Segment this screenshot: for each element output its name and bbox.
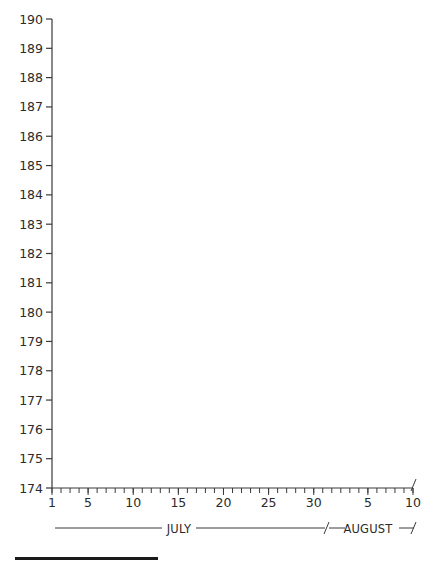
x-tick-label: 10 <box>405 495 421 510</box>
y-tick-label: 174 <box>19 481 43 496</box>
y-tick-label: 190 <box>19 12 43 27</box>
y-tick-label: 184 <box>19 187 43 202</box>
y-tick-label: 176 <box>19 422 43 437</box>
x-tick-label: 10 <box>125 495 141 510</box>
x-tick-label: 25 <box>261 495 277 510</box>
x-tick-label: 5 <box>84 495 92 510</box>
blank-weight-chart: 1741751761771781791801811821831841851861… <box>0 0 443 572</box>
x-tick-label: 30 <box>306 495 322 510</box>
y-tick-label: 183 <box>19 217 43 232</box>
y-tick-label: 178 <box>19 363 43 378</box>
y-tick-label: 180 <box>19 305 43 320</box>
x-tick-label: 15 <box>170 495 186 510</box>
y-axis: 1741751761771781791801811821831841851861… <box>19 12 52 496</box>
y-tick-label: 189 <box>19 41 43 56</box>
x-tick-label: 1 <box>48 495 56 510</box>
y-tick-label: 177 <box>19 393 43 408</box>
month-label-august: AUGUST <box>343 522 393 536</box>
y-tick-label: 188 <box>19 70 43 85</box>
y-tick-label: 181 <box>19 275 43 290</box>
y-tick-label: 175 <box>19 451 43 466</box>
footnote-rule <box>15 557 158 560</box>
y-tick-label: 182 <box>19 246 43 261</box>
x-tick-label: 20 <box>216 495 232 510</box>
y-tick-label: 186 <box>19 129 43 144</box>
y-tick-label: 185 <box>19 158 43 173</box>
y-tick-label: 187 <box>19 99 43 114</box>
y-tick-label: 179 <box>19 334 43 349</box>
x-tick-label: 5 <box>364 495 372 510</box>
month-bar: JULYAUGUST <box>55 522 416 536</box>
month-label-july: JULY <box>166 522 192 536</box>
x-axis: 151015202530510 <box>48 479 421 510</box>
